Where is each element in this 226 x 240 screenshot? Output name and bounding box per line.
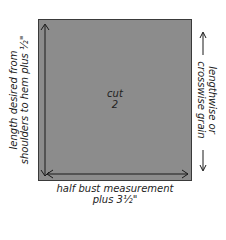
width-label-line1: half bust measurement — [38, 183, 192, 194]
grain-label: lengthwise or crosswise grain — [196, 35, 218, 164]
width-label-line2: plus 3½" — [38, 194, 192, 205]
width-arrow-icon — [47, 170, 188, 178]
grain-label-line1: lengthwise or — [207, 35, 218, 164]
length-dimension-label: length desired from shoulders to hem plu… — [8, 36, 30, 165]
width-dimension-label: half bust measurement plus 3½" — [38, 183, 192, 205]
grain-label-line2: crosswise grain — [196, 35, 207, 164]
length-label-line1: length desired from — [8, 36, 19, 165]
length-arrow-icon — [41, 24, 49, 176]
length-label-line2: shoulders to hem plus ½" — [19, 36, 30, 165]
